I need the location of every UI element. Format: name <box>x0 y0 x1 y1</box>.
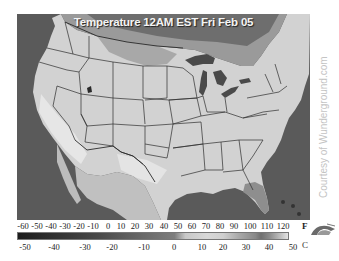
f-tick: 50 <box>174 221 183 231</box>
map-title: Temperature 12AM EST Fri Feb 05 <box>17 16 310 28</box>
c-tick: 30 <box>242 242 251 252</box>
f-tick: 110 <box>261 221 273 231</box>
f-tick: 80 <box>216 221 225 231</box>
island <box>297 212 301 216</box>
f-tick: -60 <box>17 221 28 231</box>
c-tick: -50 <box>19 242 30 252</box>
c-tick: -20 <box>106 242 117 252</box>
f-tick: -10 <box>87 221 98 231</box>
f-tick: 0 <box>106 221 110 231</box>
f-tick: -20 <box>73 221 84 231</box>
f-tick: 120 <box>277 221 290 231</box>
wunderground-logo-icon <box>309 223 337 237</box>
f-tick: 60 <box>188 221 197 231</box>
f-tick: -30 <box>59 221 70 231</box>
c-tick: 20 <box>219 242 228 252</box>
f-tick: 100 <box>244 221 257 231</box>
celsius-unit-label: C <box>302 240 308 250</box>
c-tick: 50 <box>289 242 298 252</box>
island <box>291 204 295 208</box>
temperature-map: Temperature 12AM EST Fri Feb 05 <box>17 14 310 220</box>
f-tick: 90 <box>230 221 239 231</box>
celsius-ticks: -50 -40 -30 -20 -10 0 10 20 30 40 50 <box>17 242 307 252</box>
c-tick: -40 <box>48 242 59 252</box>
temperature-colorbar <box>17 232 289 240</box>
f-tick: 10 <box>117 221 126 231</box>
c-tick: 0 <box>172 242 176 252</box>
f-tick: -40 <box>45 221 56 231</box>
temperature-legend: -60 -50 -40 -30 -20 -10 0 10 20 30 40 50… <box>17 220 339 261</box>
island <box>281 200 285 204</box>
us-map-graphic <box>17 14 310 220</box>
f-tick: 30 <box>145 221 154 231</box>
f-tick: 70 <box>202 221 211 231</box>
c-tick: 10 <box>198 242 207 252</box>
c-tick: -10 <box>138 242 149 252</box>
fahrenheit-unit-label: F <box>302 221 308 231</box>
c-tick: 40 <box>265 242 274 252</box>
c-tick: -30 <box>79 242 90 252</box>
credit-text: Courtesy of Wunderground.com <box>318 56 329 198</box>
fahrenheit-ticks: -60 -50 -40 -30 -20 -10 0 10 20 30 40 50… <box>17 221 307 231</box>
f-tick: -50 <box>31 221 42 231</box>
f-tick: 20 <box>131 221 140 231</box>
f-tick: 40 <box>160 221 169 231</box>
